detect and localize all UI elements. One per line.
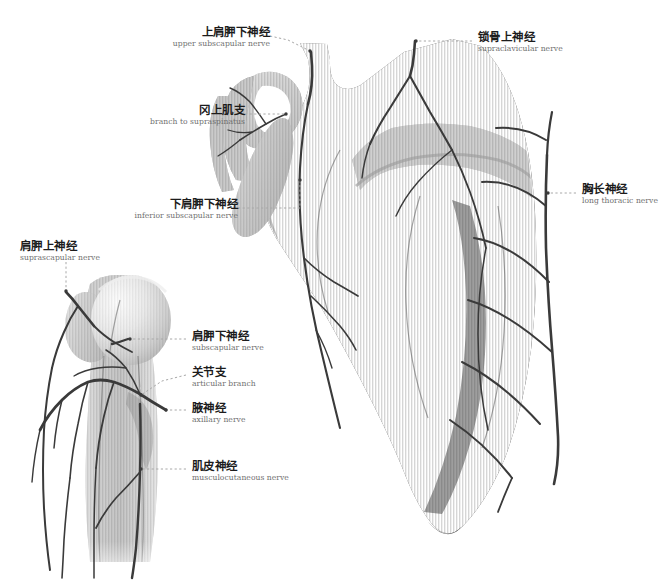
label-cn: 肌皮神经: [192, 460, 322, 472]
label-cn: 下肩胛下神经: [96, 198, 238, 210]
label-axillary-nerve: 腋神经 axillary nerve: [192, 402, 292, 424]
label-en: supraclavicular nerve: [478, 45, 618, 53]
axillary-branch-b: [70, 382, 88, 478]
posterior-fibre-short: [62, 478, 70, 578]
label-en: upper subscapular nerve: [168, 40, 270, 48]
label-cn: 关节支: [192, 366, 292, 378]
label-suprascapular-nerve: 肩胛上神经 suprascapular nerve: [20, 240, 140, 262]
label-articular-branch: 关节支 articular branch: [192, 366, 292, 388]
posterior-fibre-long: [43, 368, 52, 570]
label-cn: 肩胛上神经: [20, 240, 140, 252]
label-en: inferior subscapular nerve: [96, 212, 238, 220]
label-en: suprascapular nerve: [20, 254, 140, 262]
label-en: articular branch: [192, 380, 292, 388]
label-en: subscapular nerve: [192, 344, 302, 352]
label-en: long thoracic nerve: [582, 197, 663, 205]
long-thoracic-nerve-trunk: [546, 155, 559, 484]
label-cn: 锁骨上神经: [478, 31, 618, 43]
anatomy-figure: 上肩胛下神经 upper subscapular nerve 冈上肌支 bran…: [0, 0, 663, 585]
label-long-thoracic-nerve: 胸长神经 long thoracic nerve: [582, 183, 663, 205]
label-branch-to-supraspinatus: 冈上肌支 branch to supraspinatus: [115, 104, 245, 126]
shaft-fade: [74, 470, 174, 585]
label-en: axillary nerve: [192, 416, 292, 424]
lateral-fibre-tail: [32, 430, 40, 482]
label-cn: 上肩胛下神经: [168, 26, 270, 38]
anatomy-illustration: [0, 0, 663, 585]
label-cn: 腋神经: [192, 402, 292, 414]
label-en: branch to supraspinatus: [115, 118, 245, 126]
label-upper-subscapular-nerve: 上肩胛下神经 upper subscapular nerve: [168, 26, 270, 48]
label-en: musculocutaneous nerve: [192, 474, 322, 482]
label-musculocutaneous-nerve: 肌皮神经 musculocutaneous nerve: [192, 460, 322, 482]
label-cn: 胸长神经: [582, 183, 663, 195]
long-thoracic-nerve-upper: [547, 112, 552, 155]
rib-tail: [498, 478, 512, 512]
label-cn: 冈上肌支: [115, 104, 245, 116]
label-supraclavicular-nerve: 锁骨上神经 supraclavicular nerve: [478, 31, 618, 53]
humerus-group: [65, 275, 174, 585]
label-inferior-subscapular-nerve: 下肩胛下神经 inferior subscapular nerve: [96, 198, 238, 220]
label-cn: 肩胛下神经: [192, 330, 302, 342]
label-subscapular-nerve: 肩胛下神经 subscapular nerve: [192, 330, 302, 352]
